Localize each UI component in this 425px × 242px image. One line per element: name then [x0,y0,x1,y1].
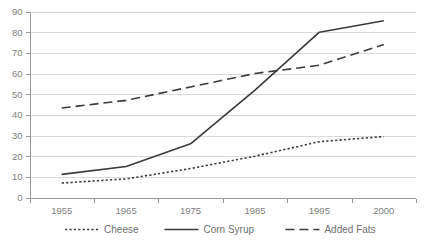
legend-label-corn-syrup: Corn Syrup [203,224,254,235]
x-tick-labels: 195519651975198519952000 [51,205,394,216]
legend-label-cheese: Cheese [104,224,139,235]
series-line-cheese [62,137,384,184]
y-tick-label: 20 [12,151,23,162]
y-tick-label: 70 [12,47,23,58]
x-tick-label: 1975 [180,205,201,216]
x-tick-label: 1985 [244,205,265,216]
y-tick-label: 40 [12,109,23,120]
y-tick-labels: 0102030405060708090 [12,6,30,203]
x-tick-label: 2000 [373,205,394,216]
data-series [62,21,384,183]
series-line-corn-syrup [62,21,384,175]
line-chart: 0102030405060708090 19551965197519851995… [0,0,425,242]
series-line-added-fats [62,45,384,108]
y-tick-label: 30 [12,130,23,141]
x-tick-label: 1995 [309,205,330,216]
y-tick-label: 60 [12,68,23,79]
x-tick-label: 1955 [51,205,72,216]
y-tick-label: 10 [12,171,23,182]
x-axis [30,199,417,203]
y-tick-label: 50 [12,89,23,100]
x-tick-label: 1965 [116,205,137,216]
y-tick-label: 80 [12,27,23,38]
legend-label-added-fats: Added Fats [324,224,375,235]
y-tick-label: 0 [17,192,22,203]
y-tick-label: 90 [12,6,23,17]
chart-canvas: 0102030405060708090 19551965197519851995… [0,0,425,242]
chart-legend: CheeseCorn SyrupAdded Fats [65,224,376,235]
